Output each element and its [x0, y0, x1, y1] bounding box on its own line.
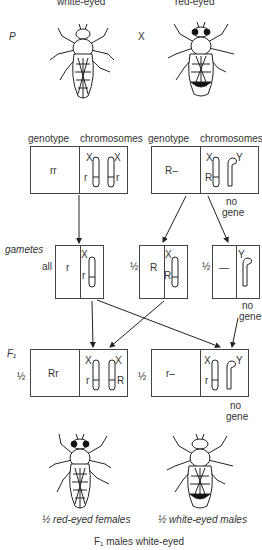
y-chromosome-icon — [240, 256, 254, 288]
x-chromosome-icon — [211, 359, 219, 391]
generation-label-f1: F₁ — [7, 348, 16, 359]
allele-label: r — [82, 270, 85, 281]
gamete-fraction: all — [42, 261, 52, 272]
f1-fraction: ½ — [17, 371, 25, 382]
allele-label: r — [205, 375, 208, 386]
fly-icon-white-eyed-male — [165, 428, 235, 508]
footer-caption: F₁ males white-eyed — [94, 536, 184, 547]
gamete-box-r — [55, 245, 104, 299]
y-chromosome-icon — [224, 359, 238, 391]
f1-fraction: ½ — [138, 371, 146, 382]
chromosome-label: X — [81, 249, 88, 260]
allele-label: R — [117, 375, 124, 386]
no-gene-note: gene — [226, 411, 248, 422]
gamete-genotype: — — [219, 262, 229, 273]
x-chromosome-icon — [88, 256, 96, 288]
x-chromosome-icon — [171, 256, 179, 288]
allele-label: r — [86, 375, 89, 386]
gametes-label: gametes — [5, 244, 43, 255]
gamete-genotype: R — [150, 262, 157, 273]
chromosome-label: X — [115, 355, 122, 366]
gamete-genotype: r — [66, 262, 69, 273]
x-chromosome-icon — [92, 359, 100, 391]
gamete-fraction: ½ — [130, 261, 138, 272]
gamete-fraction: ½ — [202, 261, 210, 272]
x-chromosome-icon — [108, 359, 116, 391]
no-gene-note: no — [230, 400, 241, 411]
f1-genotype: r– — [166, 368, 175, 379]
chromosome-label: X — [204, 355, 211, 366]
f1-caption-males: ½ white-eyed males — [158, 514, 247, 525]
no-gene-note: gene — [239, 311, 261, 322]
f1-caption-females: ½ red-eyed females — [42, 514, 130, 525]
fly-icon-red-eyed-female — [45, 428, 115, 508]
f1-genotype: Rr — [48, 368, 59, 379]
no-gene-note: no — [242, 300, 253, 311]
chromosome-label: X — [85, 355, 92, 366]
